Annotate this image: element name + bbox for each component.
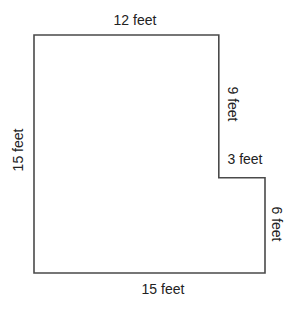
label-right-lower-6-feet: 6 feet (269, 206, 285, 241)
label-left-15-feet: 15 feet (10, 128, 26, 171)
label-top-12-feet: 12 feet (114, 12, 157, 28)
floor-plan-diagram: 12 feet 9 feet 3 feet 6 feet 15 feet 15 … (0, 0, 300, 312)
label-bottom-15-feet: 15 feet (142, 281, 185, 297)
label-right-upper-9-feet: 9 feet (225, 86, 241, 121)
label-step-3-feet: 3 feet (227, 151, 262, 167)
